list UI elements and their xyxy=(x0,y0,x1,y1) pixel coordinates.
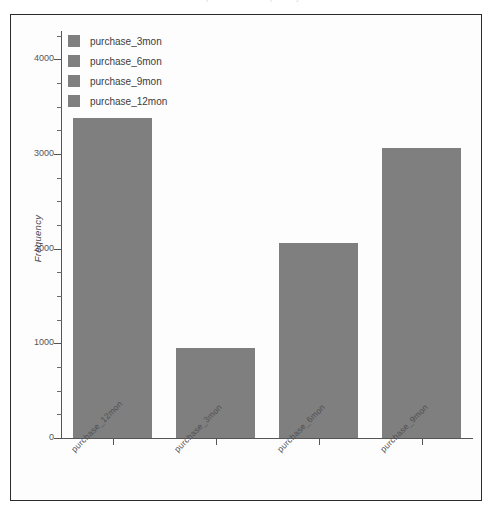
legend-swatch-icon xyxy=(68,55,80,67)
legend-swatch-icon xyxy=(68,95,80,107)
y-tick-label-wrap: 2000 xyxy=(11,249,54,261)
y-tick-label-wrap: 3000 xyxy=(11,154,54,166)
y-tick-label-wrap: 0 xyxy=(11,438,54,450)
y-tick-minor xyxy=(57,414,62,415)
y-tick-minor xyxy=(57,367,62,368)
legend-item[interactable]: purchase_6mon xyxy=(68,51,218,71)
y-tick-minor xyxy=(57,320,62,321)
clipped-title-strip: purchase frequency distribution xyxy=(0,0,494,11)
y-tick-label: 1000 xyxy=(12,337,54,347)
y-tick-major xyxy=(54,343,62,344)
bar[interactable] xyxy=(382,148,460,438)
legend-item[interactable]: purchase_3mon xyxy=(68,31,218,51)
y-tick-minor xyxy=(57,83,62,84)
y-tick-major xyxy=(54,438,62,439)
x-tick-major xyxy=(216,439,217,445)
y-axis-line xyxy=(61,31,62,439)
legend-item[interactable]: purchase_12mon xyxy=(68,91,218,111)
legend-item-label: purchase_6mon xyxy=(90,56,162,67)
y-tick-minor xyxy=(57,130,62,131)
y-tick-label-wrap: 4000 xyxy=(11,59,54,71)
legend-item-label: purchase_12mon xyxy=(90,96,167,107)
chart-window: Frequency 01000200030004000 purchase_12m… xyxy=(10,14,482,501)
bar[interactable] xyxy=(73,118,151,438)
legend-item-label: purchase_3mon xyxy=(90,36,162,47)
y-tick-minor xyxy=(57,107,62,108)
y-tick-major xyxy=(54,59,62,60)
y-tick-label: 0 xyxy=(12,432,54,442)
y-tick-label: 4000 xyxy=(12,53,54,63)
x-axis-line xyxy=(61,438,473,439)
y-tick-minor xyxy=(57,201,62,202)
y-tick-minor xyxy=(57,272,62,273)
y-tick-label: 2000 xyxy=(12,243,54,253)
y-tick-label-wrap: 1000 xyxy=(11,343,54,355)
legend-item-label: purchase_9mon xyxy=(90,76,162,87)
legend-item[interactable]: purchase_9mon xyxy=(68,71,218,91)
bar[interactable] xyxy=(176,348,254,438)
clipped-title-text: purchase frequency distribution xyxy=(206,0,357,2)
y-tick-minor xyxy=(57,225,62,226)
plot-area: Frequency 01000200030004000 purchase_12m… xyxy=(11,15,482,501)
y-tick-minor xyxy=(57,296,62,297)
y-tick-major xyxy=(54,249,62,250)
y-tick-label: 3000 xyxy=(12,148,54,158)
legend-swatch-icon xyxy=(68,75,80,87)
x-tick-major xyxy=(113,439,114,445)
y-tick-minor xyxy=(57,36,62,37)
y-tick-minor xyxy=(57,178,62,179)
y-tick-minor xyxy=(57,391,62,392)
chart-legend: purchase_3monpurchase_6monpurchase_9monp… xyxy=(68,31,218,111)
legend-swatch-icon xyxy=(68,35,80,47)
y-axis-title: Frequency xyxy=(32,199,43,279)
x-tick-major xyxy=(422,439,423,445)
y-tick-major xyxy=(54,154,62,155)
x-tick-major xyxy=(319,439,320,445)
